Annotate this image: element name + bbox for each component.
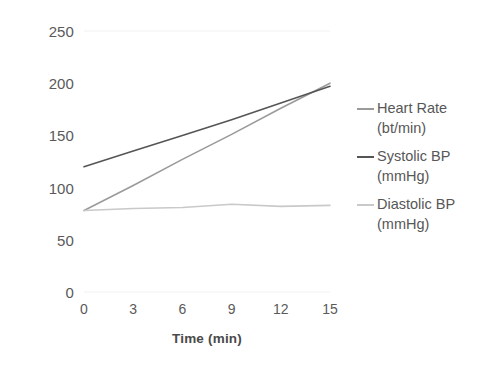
legend-item[interactable]: Diastolic BP (mmHg): [357, 195, 492, 234]
series-lines: [84, 83, 330, 210]
gridlines: [84, 31, 330, 292]
legend-label: Heart Rate (bt/min): [377, 99, 447, 138]
series-line: [84, 86, 330, 166]
legend-color-swatch: [357, 108, 374, 110]
x-axis-tick-label: 12: [261, 302, 301, 316]
x-axis-tick-label: 3: [113, 302, 153, 316]
series-line: [84, 83, 330, 210]
y-axis-tick-label: 200: [8, 76, 74, 91]
x-axis-tick-label: 9: [212, 302, 252, 316]
chart-legend: Heart Rate (bt/min)Systolic BP (mmHg)Dia…: [357, 99, 492, 243]
legend-item[interactable]: Heart Rate (bt/min): [357, 99, 492, 138]
y-axis-tick-label: 250: [8, 24, 74, 39]
x-axis-tick-label: 6: [162, 302, 202, 316]
series-line: [84, 204, 330, 210]
y-axis-tick-label: 100: [8, 181, 74, 196]
x-axis-tick-label: 15: [310, 302, 350, 316]
y-axis-tick-label: 150: [8, 128, 74, 143]
legend-color-swatch: [357, 204, 374, 206]
x-axis-tick-labels: 03691215: [84, 302, 330, 322]
x-axis-tick-label: 0: [64, 302, 104, 316]
y-axis-tick-label: 50: [8, 233, 74, 248]
legend-color-swatch: [357, 156, 374, 158]
y-axis-tick-labels: 250200150100500: [8, 0, 74, 372]
line-chart: 250200150100500 03691215 Time (min) Hear…: [0, 0, 497, 372]
legend-label: Systolic BP (mmHg): [377, 147, 450, 186]
legend-label: Diastolic BP (mmHg): [377, 195, 455, 234]
plot-svg: [84, 31, 330, 292]
legend-item[interactable]: Systolic BP (mmHg): [357, 147, 492, 186]
y-axis-tick-label: 0: [8, 285, 74, 300]
plot-area: [84, 31, 330, 292]
x-axis-title: Time (min): [84, 331, 330, 346]
